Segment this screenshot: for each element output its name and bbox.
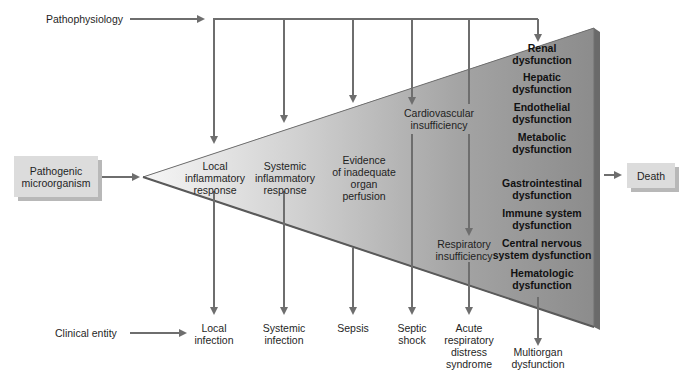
death-box: Death — [627, 163, 675, 188]
pathophysiology-bus — [214, 19, 538, 37]
organ-hepatic-dysfunction: Hepaticdysfunction — [488, 72, 596, 95]
pathogenic-microorganism-box: Pathogenic microorganism — [14, 156, 98, 197]
organ-gastrointestinal-dysfunction: Gastrointestinaldysfunction — [488, 178, 596, 201]
organ-immune-system-dysfunction: Immune systemdysfunction — [488, 208, 596, 231]
clinical-entity-label: Clinical entity — [55, 327, 117, 339]
organ-cns-dysfunction: Central nervoussystem dysfunction — [486, 238, 598, 261]
stage-systemic-inflammatory-response: Systemicinflammatoryresponse — [253, 160, 317, 196]
organ-metabolic-dysfunction: Metabolicdysfunction — [488, 132, 596, 155]
organ-hematologic-dysfunction: Hematologicdysfunction — [488, 268, 596, 291]
clinical-sepsis: Sepsis — [323, 322, 383, 334]
clinical-septic-shock: Septicshock — [382, 322, 442, 346]
clinical-systemic-infection: Systemicinfection — [254, 322, 314, 346]
clinical-ards: Acuterespiratorydistresssyndrome — [439, 322, 499, 370]
clinical-local-infection: Localinfection — [184, 322, 244, 346]
stage-local-inflammatory-response: Localinflammatoryresponse — [183, 160, 247, 196]
pathophysiology-label: Pathophysiology — [46, 13, 123, 25]
organ-renal-dysfunction: Renaldysfunction — [488, 43, 596, 66]
clinical-multiorgan-dysfunction: Multiorgandysfunction — [503, 346, 573, 370]
stage-cardiovascular-insufficiency: Cardiovascularinsufficiency — [401, 107, 477, 131]
stage-inadequate-organ-perfusion: Evidenceof inadequateorganperfusion — [328, 154, 400, 202]
organ-endothelial-dysfunction: Endothelialdysfunction — [488, 102, 596, 125]
